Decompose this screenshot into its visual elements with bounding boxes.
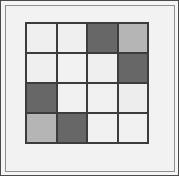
grid-cell-r3c4[interactable]	[119, 84, 150, 114]
figure-mat	[5, 5, 175, 172]
pattern-grid	[25, 22, 149, 144]
grid-cell-r4c3[interactable]	[88, 114, 119, 144]
grid-cell-r2c3[interactable]	[88, 54, 119, 84]
grid-cell-r3c3[interactable]	[88, 84, 119, 114]
grid-cell-r4c1[interactable]	[27, 114, 58, 144]
grid-cell-r1c4[interactable]	[119, 24, 150, 54]
grid-cell-r2c1[interactable]	[27, 54, 58, 84]
grid-cell-r1c3[interactable]	[88, 24, 119, 54]
grid-cell-r3c1[interactable]	[27, 84, 58, 114]
figure-canvas	[0, 0, 179, 176]
grid-cell-r2c4[interactable]	[119, 54, 150, 84]
grid-cell-r1c1[interactable]	[27, 24, 58, 54]
grid-cell-r3c2[interactable]	[58, 84, 89, 114]
grid-cell-r4c4[interactable]	[119, 114, 150, 144]
grid-cell-r1c2[interactable]	[58, 24, 89, 54]
grid-cell-r2c2[interactable]	[58, 54, 89, 84]
grid-cell-r4c2[interactable]	[58, 114, 89, 144]
